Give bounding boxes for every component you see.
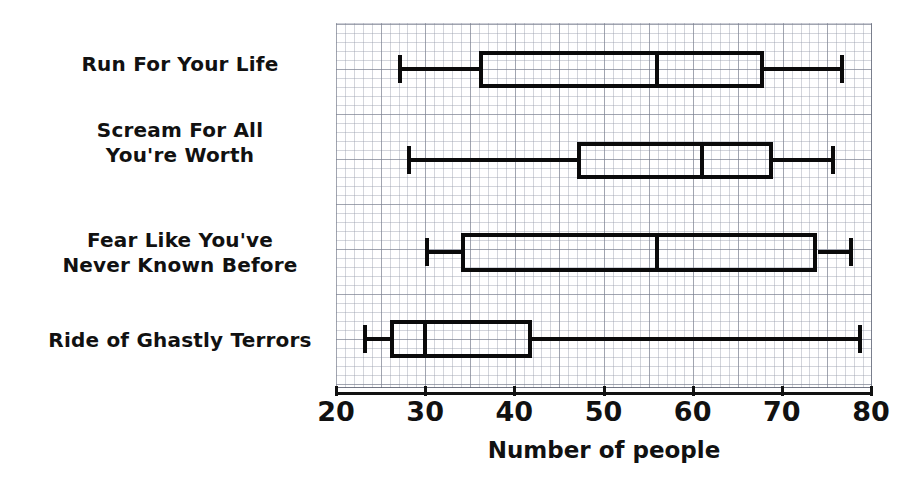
lower-whisker-cap — [398, 55, 402, 83]
iqr-box — [577, 142, 773, 179]
upper-whisker-cap — [840, 55, 844, 83]
category-label-column: Run For Your Life Scream For All You're … — [18, 0, 330, 400]
iqr-box — [479, 51, 764, 88]
upper-whisker-line — [773, 158, 835, 162]
upper-whisker-cap — [849, 238, 853, 266]
lower-whisker-cap — [407, 146, 411, 174]
upper-whisker-line — [818, 250, 854, 254]
upper-whisker-cap — [858, 325, 862, 353]
x-tick-50 — [603, 386, 606, 396]
category-label-run-for-your-life: Run For Your Life — [30, 52, 330, 77]
lower-whisker-cap — [363, 325, 367, 353]
lower-whisker-cap — [425, 238, 429, 266]
x-tick-30 — [424, 386, 427, 396]
category-label-scream-for-all-youre-worth: Scream For All You're Worth — [30, 118, 330, 168]
x-tick-label-30: 30 — [385, 396, 465, 428]
x-tick-label-40: 40 — [474, 396, 554, 428]
iqr-box — [390, 320, 533, 358]
chart-page: Run For Your Life Scream For All You're … — [0, 0, 924, 490]
x-axis-title: Number of people — [336, 436, 872, 464]
lower-whisker-line — [398, 67, 478, 71]
iqr-box — [461, 233, 818, 272]
median-line — [700, 142, 704, 179]
median-line — [655, 233, 659, 272]
upper-whisker-cap — [831, 146, 835, 174]
x-tick-label-50: 50 — [564, 396, 644, 428]
x-tick-80 — [870, 386, 873, 396]
upper-whisker-line — [532, 337, 862, 341]
x-tick-40 — [513, 386, 516, 396]
lower-whisker-line — [363, 337, 390, 341]
x-tick-70 — [781, 386, 784, 396]
x-tick-label-80: 80 — [831, 396, 911, 428]
upper-whisker-line — [764, 67, 844, 71]
x-tick-label-70: 70 — [742, 396, 822, 428]
median-line — [655, 51, 659, 88]
category-label-fear-like-youve-never-known-before: Fear Like You've Never Known Before — [30, 228, 330, 278]
x-tick-label-20: 20 — [296, 396, 376, 428]
lower-whisker-line — [425, 250, 461, 254]
x-tick-60 — [692, 386, 695, 396]
category-label-ride-of-ghastly-terrors: Ride of Ghastly Terrors — [30, 328, 330, 353]
lower-whisker-line — [407, 158, 576, 162]
x-tick-label-60: 60 — [653, 396, 733, 428]
x-tick-20 — [335, 386, 338, 396]
median-line — [423, 320, 427, 358]
